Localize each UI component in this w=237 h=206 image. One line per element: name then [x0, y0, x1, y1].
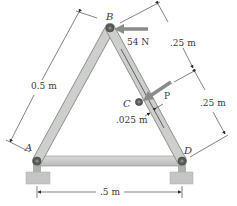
truss-diagram: A B C D 54 N P 0.5 m .25 m .25 m .025 m … [0, 0, 237, 206]
label-force-54n: 54 N [127, 37, 149, 47]
force-arrow-54n [114, 24, 148, 34]
label-dim-cd: .25 m [200, 98, 226, 108]
member-ad [37, 156, 182, 166]
label-dim-ab: 0.5 m [31, 81, 57, 91]
support-a [26, 164, 50, 184]
member-ab [37, 28, 110, 161]
label-d: D [183, 145, 192, 156]
label-dim-bc: .25 m [170, 38, 196, 48]
label-c: C [123, 98, 131, 109]
label-a: A [24, 142, 32, 153]
label-dim-offset: .025 m [116, 115, 148, 125]
support-d [170, 164, 193, 184]
label-force-p: P [164, 91, 170, 101]
label-dim-ad: .5 m [100, 187, 120, 197]
label-b: B [105, 11, 113, 22]
